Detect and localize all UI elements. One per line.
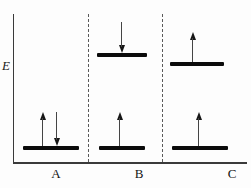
arrow-shaft xyxy=(119,118,120,146)
panel-label-b: B xyxy=(131,166,147,181)
spin-up-arrow xyxy=(189,32,196,62)
panel-divider-bc xyxy=(162,14,163,162)
arrow-shaft xyxy=(56,112,57,140)
arrow-shaft xyxy=(198,118,199,146)
arrow-shaft xyxy=(121,22,122,47)
spin-up-arrow xyxy=(39,112,46,146)
energy-axis-label: E xyxy=(2,59,10,73)
level-bar-c-excited xyxy=(170,62,224,66)
panel-label-c: C xyxy=(224,166,240,181)
level-bar-c-ground xyxy=(172,146,228,150)
level-bar-b-ground xyxy=(99,146,145,150)
x-axis-line xyxy=(13,162,247,164)
level-bar-b-excited xyxy=(97,53,147,57)
spin-down-arrow xyxy=(118,22,125,53)
arrow-shaft xyxy=(42,118,43,146)
spin-up-arrow xyxy=(116,112,123,146)
energy-level-diagram: E A B C xyxy=(0,0,251,188)
panel-divider-ab xyxy=(88,14,89,162)
arrow-shaft xyxy=(192,38,193,62)
y-axis-line xyxy=(13,14,14,163)
spin-up-arrow xyxy=(195,112,202,146)
level-bar-a-ground xyxy=(23,146,79,150)
panel-label-a: A xyxy=(48,166,64,181)
spin-down-arrow xyxy=(53,112,60,146)
